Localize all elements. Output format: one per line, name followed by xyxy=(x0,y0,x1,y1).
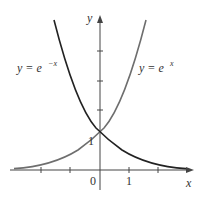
svg-text:−x: −x xyxy=(48,59,57,68)
label-e-neg-x: y = e −x xyxy=(16,59,57,75)
x-tick-label-0: 0 xyxy=(90,174,96,188)
exponential-chart: y x 0 1 1 y = e −x y = e x xyxy=(0,0,201,202)
svg-text:y = e: y = e xyxy=(138,61,164,75)
svg-text:x: x xyxy=(169,59,174,68)
x-axis-arrow-icon xyxy=(186,167,194,173)
curve-e-x xyxy=(14,20,146,169)
curve-e-neg-x xyxy=(54,20,186,169)
x-axis-label: x xyxy=(185,176,192,190)
y-axis-arrow-icon xyxy=(97,15,103,23)
y-axis-label: y xyxy=(86,11,93,25)
y-tick-label-1: 1 xyxy=(88,134,94,148)
svg-text:y = e: y = e xyxy=(16,61,42,75)
x-tick-label-1: 1 xyxy=(126,174,132,188)
label-e-x: y = e x xyxy=(138,59,174,75)
